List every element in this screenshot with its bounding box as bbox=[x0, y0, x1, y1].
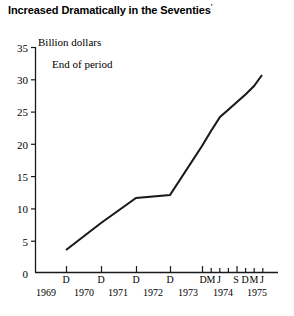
y-tick-label: 25 bbox=[6, 106, 28, 118]
x-tick-year-label: 1975 bbox=[247, 287, 267, 298]
data-line-end-of-period bbox=[66, 75, 262, 250]
x-tick-month-label: D bbox=[199, 274, 206, 285]
y-axis-ticks bbox=[31, 48, 36, 242]
x-tick-month-label: D bbox=[97, 274, 104, 285]
y-tick-label: 20 bbox=[6, 139, 28, 151]
x-tick-month-label: J bbox=[260, 274, 264, 285]
y-tick-label: 10 bbox=[6, 203, 28, 215]
x-tick-year-label: 1972 bbox=[143, 287, 163, 298]
x-tick-year-label: 1971 bbox=[108, 287, 128, 298]
x-tick-month-label: S bbox=[233, 274, 239, 285]
x-tick-month-label: D bbox=[166, 274, 173, 285]
x-tick-month-label: J bbox=[217, 274, 221, 285]
x-tick-month-label: M bbox=[207, 274, 216, 285]
chart-plot-area bbox=[0, 0, 294, 316]
x-tick-year-label: 1974 bbox=[213, 287, 233, 298]
x-tick-month-label: D bbox=[241, 274, 248, 285]
y-tick-label: 35 bbox=[6, 42, 28, 54]
y-tick-label: 30 bbox=[6, 74, 28, 86]
x-tick-month-label: D bbox=[62, 274, 69, 285]
x-axis-ticks bbox=[67, 266, 263, 273]
y-tick-label: 15 bbox=[6, 171, 28, 183]
y-tick-label: 5 bbox=[6, 236, 28, 248]
chart-axes bbox=[35, 47, 278, 273]
y-tick-label: 0 bbox=[6, 268, 28, 280]
x-tick-year-label: 1969 bbox=[36, 287, 56, 298]
x-tick-year-label: 1970 bbox=[74, 287, 94, 298]
x-tick-year-label: 1973 bbox=[178, 287, 198, 298]
x-tick-month-label: D bbox=[132, 274, 139, 285]
x-tick-month-label: M bbox=[250, 274, 259, 285]
chart-page: Increased Dramatically in the Seventies'… bbox=[0, 0, 294, 316]
